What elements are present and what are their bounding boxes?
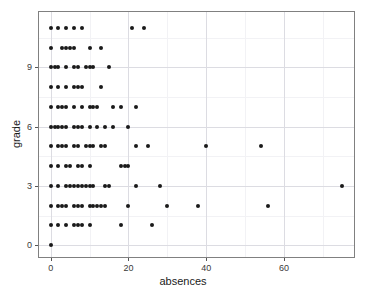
data-point: [72, 105, 76, 109]
data-point: [88, 125, 92, 129]
plot-panel: [38, 11, 355, 258]
data-point: [204, 144, 208, 148]
data-point: [103, 125, 107, 129]
data-point: [68, 164, 72, 168]
data-point: [80, 85, 84, 89]
data-point: [56, 85, 60, 89]
y-tick-mark: [35, 186, 38, 187]
data-point: [49, 223, 53, 227]
data-point: [80, 125, 84, 129]
data-point: [49, 243, 53, 247]
data-point: [80, 105, 84, 109]
data-point: [64, 223, 68, 227]
scatter-plot-figure: grade absences 02040600369: [0, 0, 366, 300]
data-point: [80, 26, 84, 30]
data-point: [119, 105, 123, 109]
data-point: [266, 204, 270, 208]
y-tick-label: 9: [16, 62, 32, 72]
gridline-minor-horizontal: [39, 38, 354, 39]
gridline-major-vertical: [206, 12, 207, 257]
data-point: [56, 164, 60, 168]
data-point: [103, 204, 107, 208]
data-point: [150, 223, 154, 227]
gridline-major-horizontal: [39, 127, 354, 128]
data-point: [64, 26, 68, 30]
data-point: [134, 184, 138, 188]
data-point: [64, 65, 68, 69]
data-point: [259, 144, 263, 148]
x-tick-label: 40: [201, 263, 211, 273]
gridline-major-vertical: [128, 12, 129, 257]
data-point: [107, 184, 111, 188]
y-tick-label: 3: [16, 181, 32, 191]
data-point: [64, 85, 68, 89]
data-point: [49, 105, 53, 109]
data-point: [64, 105, 68, 109]
data-point: [134, 105, 138, 109]
gridline-minor-vertical: [323, 12, 324, 257]
data-point: [88, 164, 92, 168]
gridline-minor-vertical: [245, 12, 246, 257]
gridline-minor-horizontal: [39, 216, 354, 217]
data-point: [56, 65, 60, 69]
data-point: [72, 46, 76, 50]
gridline-minor-horizontal: [39, 97, 354, 98]
data-point: [196, 204, 200, 208]
gridline-minor-vertical: [167, 12, 168, 257]
data-point: [99, 46, 103, 50]
x-tick-mark: [51, 258, 52, 261]
x-tick-mark: [284, 258, 285, 261]
data-point: [88, 46, 92, 50]
data-point: [103, 144, 107, 148]
data-point: [49, 164, 53, 168]
y-tick-label: 0: [16, 240, 32, 250]
data-point: [80, 223, 84, 227]
data-point: [126, 204, 130, 208]
data-point: [119, 223, 123, 227]
data-point: [49, 26, 53, 30]
data-point: [111, 105, 115, 109]
data-point: [88, 223, 92, 227]
data-point: [107, 65, 111, 69]
x-axis-label: absences: [0, 275, 366, 287]
x-tick-label: 20: [123, 263, 133, 273]
gridline-minor-horizontal: [39, 156, 354, 157]
data-point: [72, 26, 76, 30]
x-tick-label: 0: [48, 263, 53, 273]
data-point: [64, 204, 68, 208]
data-point: [56, 26, 60, 30]
data-point: [146, 144, 150, 148]
data-point: [64, 125, 68, 129]
data-point: [111, 125, 115, 129]
x-tick-mark: [206, 258, 207, 261]
data-point: [49, 85, 53, 89]
y-tick-mark: [35, 245, 38, 246]
data-point: [91, 144, 95, 148]
data-point: [165, 204, 169, 208]
data-point: [76, 65, 80, 69]
data-point: [49, 204, 53, 208]
y-tick-label: 6: [16, 122, 32, 132]
data-point: [56, 223, 60, 227]
data-point: [49, 46, 53, 50]
data-point: [126, 125, 130, 129]
data-point: [95, 125, 99, 129]
gridline-major-vertical: [284, 12, 285, 257]
data-point: [80, 204, 84, 208]
data-point: [134, 144, 138, 148]
data-point: [56, 184, 60, 188]
data-point: [76, 144, 80, 148]
data-point: [80, 164, 84, 168]
x-tick-mark: [128, 258, 129, 261]
data-point: [130, 26, 134, 30]
data-point: [142, 26, 146, 30]
data-point: [340, 184, 344, 188]
y-tick-mark: [35, 67, 38, 68]
data-point: [158, 184, 162, 188]
data-point: [99, 85, 103, 89]
x-tick-label: 60: [279, 263, 289, 273]
data-point: [91, 65, 95, 69]
data-point: [95, 105, 99, 109]
data-point: [126, 164, 130, 168]
data-point: [49, 144, 53, 148]
